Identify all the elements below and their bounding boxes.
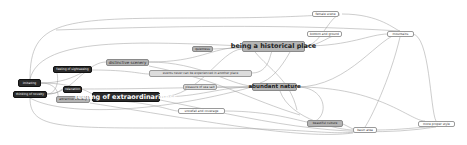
node-abundant-nature[interactable]: abundant nature	[252, 83, 297, 91]
node-label: more proper style	[423, 123, 450, 126]
node-label: pleasure of sea salt	[185, 86, 214, 89]
node-label: abundant nature	[248, 84, 300, 90]
node-feeling-of-sightseeing[interactable]: feeling of sightseeing	[53, 66, 92, 73]
node-label: basin area	[357, 129, 373, 132]
node-thinking-of-novelty[interactable]: thinking of novelty	[13, 91, 47, 98]
node-feeling-of-extraordinariness[interactable]: feeling of extraordinariness	[92, 92, 160, 102]
node-label: mountains	[393, 33, 409, 36]
node-distinctive-scenery[interactable]: distinctive scenery	[106, 59, 149, 66]
node-snowfall-and-coverage[interactable]: snowfall and coverage	[178, 108, 225, 114]
node-beautiful-culture[interactable]: beautiful culture	[307, 120, 343, 127]
node-label: bottom and ground	[310, 33, 339, 36]
node-events-never-experienced[interactable]: events never can be experienced in anoth…	[149, 70, 252, 77]
node-label: female scene	[315, 13, 335, 16]
node-female-scene[interactable]: female scene	[312, 11, 339, 17]
node-pleasure-of-sea-salt[interactable]: pleasure of sea salt	[183, 84, 217, 90]
node-label: feeling of sightseeing	[56, 68, 88, 71]
node-imitating[interactable]: imitating	[18, 79, 41, 87]
node-label: thinking of novelty	[16, 93, 44, 96]
node-label: imitating	[23, 82, 36, 85]
node-more-proper-style[interactable]: more proper style	[418, 121, 455, 127]
node-label: quietness	[195, 48, 210, 51]
node-mountains[interactable]: mountains	[387, 31, 414, 37]
node-label: distinctive scenery	[109, 61, 147, 65]
node-label: being a historical place	[231, 43, 316, 50]
node-quietness[interactable]: quietness	[192, 46, 213, 52]
node-relaxation[interactable]: relaxation	[63, 86, 82, 93]
node-bottom-and-ground[interactable]: bottom and ground	[307, 31, 342, 37]
node-being-a-historical-place[interactable]: being a historical place	[242, 41, 305, 52]
node-label: relaxation	[65, 88, 80, 91]
node-label: feeling of extraordinariness	[75, 94, 177, 101]
node-label: beautiful culture	[313, 122, 338, 125]
node-label: events never can be experienced in anoth…	[163, 72, 239, 75]
node-label: snowfall and coverage	[185, 110, 219, 113]
node-basin-area[interactable]: basin area	[353, 127, 377, 133]
